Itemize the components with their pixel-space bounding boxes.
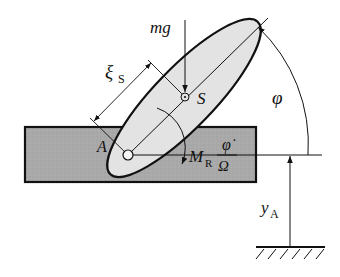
- diagram-svg: mg S A ξ S φ M R φ̇ Ω y A: [0, 0, 340, 277]
- label-phi: φ: [272, 87, 283, 108]
- label-xi: ξ: [105, 61, 114, 82]
- label-xi-subscript: S: [118, 72, 125, 86]
- ground-symbol: [256, 247, 325, 259]
- label-Omega: Ω: [218, 158, 229, 174]
- label-S: S: [197, 89, 206, 108]
- diagram-canvas: mg S A ξ S φ M R φ̇ Ω y A: [0, 0, 340, 277]
- pivot-marker: [123, 150, 133, 160]
- label-y-subscript: A: [270, 207, 279, 221]
- label-M: M: [188, 147, 204, 166]
- label-A: A: [96, 138, 107, 155]
- label-mg: mg: [150, 18, 171, 37]
- label-y: y: [259, 198, 269, 217]
- angle-arc: [258, 27, 308, 155]
- label-M-subscript: R: [205, 157, 213, 169]
- center-of-mass-dot: [184, 96, 186, 98]
